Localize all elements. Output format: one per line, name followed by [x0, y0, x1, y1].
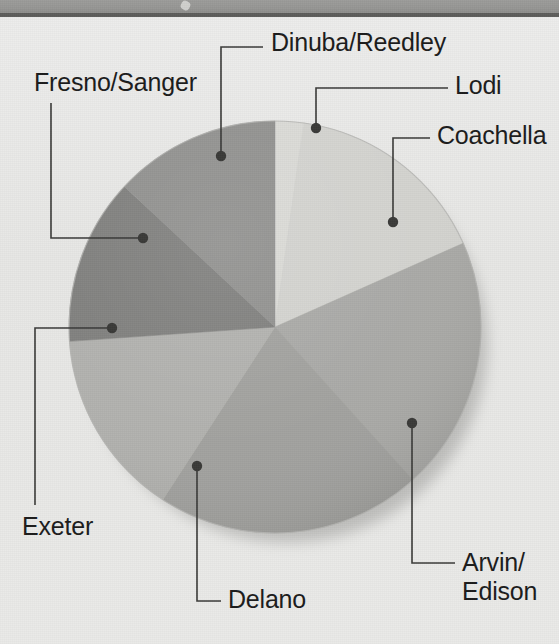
- label-lodi: Lodi: [455, 71, 501, 99]
- leader-dot: [107, 323, 117, 333]
- pie-shading: [69, 121, 481, 533]
- leader-dot: [388, 217, 398, 227]
- leader-dot: [407, 418, 417, 428]
- leader-dot: [138, 233, 148, 243]
- label-arvin-edison-line2: Edison: [462, 577, 537, 605]
- label-coachella: Coachella: [437, 121, 546, 149]
- leader-lodi: [316, 88, 448, 128]
- label-arvin-edison-line1: Arvin/: [462, 548, 525, 576]
- leader-dot: [216, 151, 226, 161]
- leader-dot: [311, 123, 321, 133]
- figure-canvas: Dinuba/Reedley Fresno/Sanger Lodi Coache…: [0, 0, 559, 644]
- leader-dot: [192, 461, 202, 471]
- label-delano: Delano: [228, 585, 306, 613]
- label-dinuba-reedley: Dinuba/Reedley: [271, 28, 446, 56]
- label-exeter: Exeter: [22, 512, 93, 540]
- label-fresno-sanger: Fresno/Sanger: [34, 68, 197, 96]
